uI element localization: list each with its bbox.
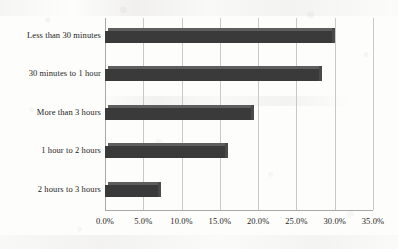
bar-front-face — [105, 146, 228, 158]
category-label: Less than 30 minutes — [1, 30, 101, 40]
plot-area — [105, 18, 373, 210]
category-label: 2 hours to 3 hours — [1, 184, 101, 194]
bar — [105, 182, 161, 197]
bar-top-face — [108, 143, 228, 146]
bar-front-face — [105, 69, 322, 81]
gridline-200 — [258, 18, 259, 210]
bar-front-face — [105, 31, 335, 43]
bar-top-face — [108, 28, 335, 31]
gridline-350 — [373, 18, 374, 210]
category-label: 1 hour to 2 hours — [1, 145, 101, 155]
bar-end-cap — [158, 182, 161, 197]
bar-front-face — [105, 185, 161, 197]
bar — [105, 66, 322, 81]
bar-top-face — [108, 66, 322, 69]
bar-end-cap — [225, 143, 228, 158]
category-axis-labels: Less than 30 minutes30 minutes to 1 hour… — [0, 0, 101, 249]
bar — [105, 105, 254, 120]
x-tick-label: 35.0% — [351, 216, 395, 226]
bar — [105, 28, 335, 43]
category-label: 30 minutes to 1 hour — [1, 68, 101, 78]
gridline-300 — [335, 18, 336, 210]
bar-front-face — [105, 108, 254, 120]
category-label: More than 3 hours — [1, 107, 101, 117]
bar-end-cap — [319, 66, 322, 81]
bar-top-face — [108, 182, 161, 185]
gridline-250 — [296, 18, 297, 210]
bar-end-cap — [332, 28, 335, 43]
x-axis-line — [105, 210, 373, 211]
bar-end-cap — [251, 105, 254, 120]
bar-chart: Less than 30 minutes30 minutes to 1 hour… — [0, 0, 398, 249]
bar — [105, 143, 228, 158]
bar-top-face — [108, 105, 254, 108]
